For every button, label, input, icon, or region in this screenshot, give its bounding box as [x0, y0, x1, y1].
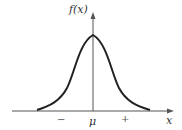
x-axis-arrow-icon [167, 109, 174, 114]
normal-curve-figure [0, 0, 182, 130]
mean-tick-label: μ [89, 116, 96, 127]
x-axis-label: x [166, 115, 172, 126]
y-axis-arrow-icon [91, 12, 96, 19]
y-axis-label: f(x) [69, 4, 88, 15]
minus-tick-label: − [57, 115, 65, 125]
plus-tick-label: + [121, 114, 129, 124]
